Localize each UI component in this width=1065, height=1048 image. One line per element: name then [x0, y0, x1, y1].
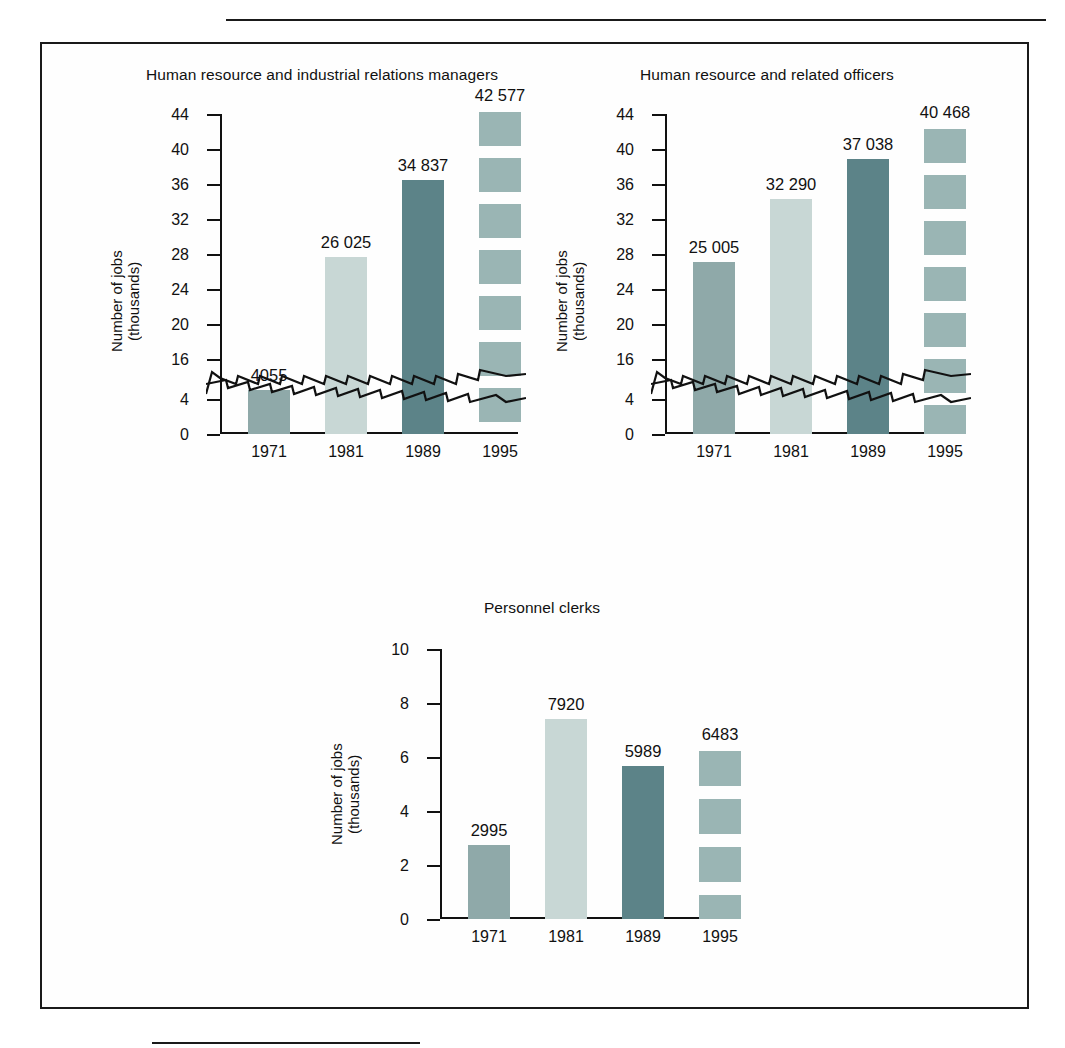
bar-1995: 6483: [699, 751, 741, 919]
y-axis-label-line2: (thousands): [345, 754, 362, 833]
y-tick: 4: [427, 811, 440, 813]
y-tick-label: 2: [400, 857, 409, 875]
y-tick-label: 24: [616, 281, 634, 299]
bar-1971: 2995: [468, 845, 510, 919]
y-tick-label: 40: [616, 141, 634, 159]
x-tick-label: 1971: [471, 928, 507, 946]
bar-value-label: 42 577: [475, 86, 525, 105]
bar-1995: 40 468: [924, 129, 966, 434]
y-tick-label: 24: [171, 281, 189, 299]
y-tick: 28: [652, 254, 665, 256]
bar-value-label: 40 468: [920, 103, 970, 122]
bar-value-label: 2995: [471, 821, 508, 840]
y-tick-label: 10: [391, 641, 409, 659]
x-tick-label: 1989: [625, 928, 661, 946]
y-tick-label: 44: [171, 106, 189, 124]
y-tick-label: 32: [171, 211, 189, 229]
y-axis-label: Number of jobs (thousands): [553, 216, 587, 386]
bar-1981: 32 290: [770, 199, 812, 434]
bar-1989: 5989: [622, 766, 664, 919]
x-tick-label: 1981: [548, 928, 584, 946]
x-tick-label: 1989: [850, 443, 886, 461]
y-axis-label-line1: Number of jobs: [553, 250, 570, 352]
y-tick-label: 28: [616, 246, 634, 264]
y-tick-label: 8: [400, 695, 409, 713]
bar-1971: 25 005: [693, 262, 735, 434]
chart-personnel-clerks: Personnel clerks Number of jobs (thousan…: [322, 599, 762, 979]
bar-1971: 4055: [248, 390, 290, 434]
y-tick: 8: [427, 703, 440, 705]
y-tick: 32: [652, 219, 665, 221]
y-tick-label: 44: [616, 106, 634, 124]
bar-1989: 34 837: [402, 180, 444, 434]
y-axis-label: Number of jobs (thousands): [328, 709, 362, 879]
y-tick-label: 4: [180, 391, 189, 409]
bar-value-label: 5989: [625, 742, 662, 761]
y-tick-label: 16: [616, 351, 634, 369]
y-tick: 10: [427, 649, 440, 651]
y-tick-label: 16: [171, 351, 189, 369]
plot-area: 0 4 16 20 24 28 32 36 40 44 25 005: [665, 114, 963, 434]
bar-value-label: 4055: [251, 366, 288, 385]
y-axis-line: [440, 649, 442, 919]
y-tick-label: 6: [400, 749, 409, 767]
bar-1981: 26 025: [325, 257, 367, 434]
y-axis-label-line1: Number of jobs: [108, 250, 125, 352]
plot-area: 0 4 16 20 24 28 32 36 40 44 4055: [220, 114, 518, 434]
chart-title: Human resource and industrial relations …: [102, 66, 542, 84]
chart-title: Human resource and related officers: [547, 66, 987, 84]
y-tick-label: 4: [400, 803, 409, 821]
y-tick: 4: [652, 399, 665, 401]
y-tick: 0: [652, 434, 665, 436]
top-horizontal-rule: [226, 19, 1046, 21]
x-tick-label: 1981: [328, 443, 364, 461]
y-axis-label: Number of jobs (thousands): [108, 216, 142, 386]
y-tick-label: 40: [171, 141, 189, 159]
y-tick-label: 20: [616, 316, 634, 334]
y-axis-line: [665, 114, 667, 434]
y-tick-label: 0: [180, 426, 189, 444]
y-tick-label: 36: [616, 176, 634, 194]
y-tick: 0: [207, 434, 220, 436]
y-tick-label: 20: [171, 316, 189, 334]
chart-title: Personnel clerks: [322, 599, 762, 617]
y-tick: 44: [652, 114, 665, 116]
y-tick-label: 36: [171, 176, 189, 194]
y-tick: 40: [652, 149, 665, 151]
bar-value-label: 25 005: [689, 238, 739, 257]
bar-value-label: 7920: [548, 695, 585, 714]
chart-human-resource-and-related-officers: Human resource and related officers Numb…: [547, 66, 987, 536]
bar-1989: 37 038: [847, 159, 889, 434]
y-tick: 28: [207, 254, 220, 256]
y-tick: 6: [427, 757, 440, 759]
bar-value-label: 26 025: [321, 233, 371, 252]
y-tick-label: 28: [171, 246, 189, 264]
bar-value-label: 6483: [702, 725, 739, 744]
y-tick: 4: [207, 399, 220, 401]
y-axis-label-line2: (thousands): [570, 261, 587, 340]
y-tick: 44: [207, 114, 220, 116]
x-tick-label: 1995: [927, 443, 963, 461]
y-tick: 24: [207, 289, 220, 291]
y-axis-line: [220, 114, 222, 434]
chart-human-resource-and-industrial-relations-managers: Human resource and industrial relations …: [102, 66, 542, 536]
bar-value-label: 34 837: [398, 156, 448, 175]
y-tick: 32: [207, 219, 220, 221]
bar-value-label: 37 038: [843, 135, 893, 154]
y-tick: 16: [207, 359, 220, 361]
bottom-horizontal-rule: [152, 1042, 420, 1044]
x-tick-label: 1989: [405, 443, 441, 461]
y-tick: 24: [652, 289, 665, 291]
x-tick-label: 1981: [773, 443, 809, 461]
x-tick-label: 1995: [482, 443, 518, 461]
y-axis-label-line1: Number of jobs: [328, 743, 345, 845]
y-tick: 0: [427, 919, 440, 921]
bar-value-label: 32 290: [766, 175, 816, 194]
y-tick: 2: [427, 865, 440, 867]
y-tick: 20: [652, 324, 665, 326]
y-tick: 20: [207, 324, 220, 326]
figure-frame: Human resource and industrial relations …: [40, 42, 1029, 1009]
x-tick-label: 1995: [702, 928, 738, 946]
plot-area: 0 2 4 6 8 10 2995 7920 5989 6483: [440, 649, 738, 919]
y-tick: 36: [652, 184, 665, 186]
